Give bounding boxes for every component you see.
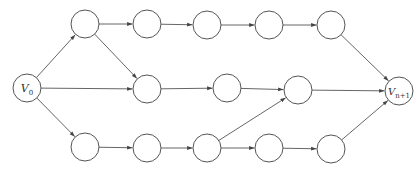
node-circle (255, 11, 283, 39)
node-b4 (255, 134, 283, 162)
node-m3 (284, 76, 312, 104)
node-b2 (133, 134, 161, 162)
node-circle (213, 74, 241, 102)
node-circle (133, 134, 161, 162)
edge-t1-m1 (95, 34, 137, 78)
node-vn1: Vn+1 (385, 77, 413, 105)
node-circle (284, 76, 312, 104)
edge-t2-t3 (161, 24, 193, 25)
edge-t5-vn1 (341, 35, 389, 81)
edge-b4-b5 (283, 148, 317, 149)
edge-b3-m3 (219, 98, 286, 141)
edge-m2-m3 (241, 88, 284, 89)
node-circle (71, 133, 99, 161)
node-t1 (71, 10, 99, 38)
node-b3 (193, 134, 221, 162)
node-circle (317, 11, 345, 39)
edge-b1-b2 (99, 147, 133, 148)
edge-v0-m1 (41, 88, 133, 89)
node-t2 (133, 10, 161, 38)
node-t5 (317, 11, 345, 39)
node-t4 (255, 11, 283, 39)
edge-m3-vn1 (312, 90, 385, 91)
node-circle (255, 134, 283, 162)
graph-diagram: V0Vn+1 (0, 0, 418, 174)
edges-layer (36, 24, 388, 149)
graph-svg: V0Vn+1 (0, 0, 418, 174)
node-m1 (133, 75, 161, 103)
edge-b5-vn1 (342, 100, 388, 140)
node-b1 (71, 133, 99, 161)
node-m2 (213, 74, 241, 102)
node-circle (71, 10, 99, 38)
node-circle (193, 11, 221, 39)
edge-v0-b1 (37, 98, 75, 137)
edge-v0-t1 (36, 35, 75, 78)
nodes-layer: V0Vn+1 (13, 10, 413, 163)
node-circle (317, 135, 345, 163)
node-circle (133, 75, 161, 103)
node-t3 (193, 11, 221, 39)
node-circle (133, 10, 161, 38)
node-b5 (317, 135, 345, 163)
node-circle (193, 134, 221, 162)
node-v0: V0 (13, 74, 41, 102)
edge-m1-m2 (161, 88, 213, 89)
